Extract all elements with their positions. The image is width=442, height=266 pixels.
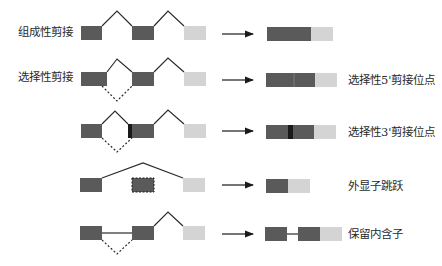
intron-splice-line bbox=[154, 11, 184, 26]
intron-splice-line bbox=[102, 163, 183, 178]
label-alt-5prime-site: 选择性5'剪接位点 bbox=[348, 73, 435, 87]
intron-splice-line bbox=[154, 58, 184, 72]
intron-splice-line bbox=[102, 111, 128, 124]
exon-2 bbox=[132, 124, 154, 138]
exon-3 bbox=[184, 26, 206, 40]
mrna-light-segment bbox=[320, 227, 342, 241]
row-intron-retention: 保留内含子 bbox=[80, 212, 403, 254]
alt-splice-dashed-line bbox=[102, 86, 132, 101]
label-exon-skipping: 外显子跳跃 bbox=[348, 179, 404, 193]
intron-splice-line bbox=[107, 59, 132, 72]
row-alt-5prime-site: 选择性5'剪接位点 bbox=[81, 58, 435, 101]
label-constitutive-splicing: 组成性剪接 bbox=[18, 25, 74, 39]
mrna-dark-segment bbox=[295, 73, 315, 87]
exon-2 bbox=[132, 72, 154, 86]
row-exon-skipping: 外显子跳跃 bbox=[80, 163, 404, 193]
mrna-dark-segment bbox=[267, 27, 311, 41]
alt-splice-dashed-line bbox=[102, 138, 132, 152]
exon-1 bbox=[80, 226, 102, 240]
exon-2 bbox=[132, 26, 154, 40]
mrna-dark-segment bbox=[298, 227, 320, 241]
exon-3 bbox=[184, 124, 206, 138]
row-alt-3prime-site: 选择性3'剪接位点 bbox=[81, 110, 435, 152]
mrna-alt-3prime-segment bbox=[288, 125, 293, 139]
label-intron-retention: 保留内含子 bbox=[348, 227, 403, 241]
mrna-light-segment bbox=[288, 179, 310, 193]
exon-1 bbox=[81, 26, 102, 40]
intron-splice-line bbox=[154, 110, 184, 124]
mrna-light-segment bbox=[311, 27, 333, 41]
exon-2 bbox=[132, 226, 154, 240]
label-alt-3prime-site: 选择性3'剪接位点 bbox=[348, 125, 435, 139]
mrna-dark-segment bbox=[293, 125, 314, 139]
exon-1 bbox=[81, 124, 102, 138]
exon-1 bbox=[80, 178, 102, 192]
label-alternative-splicing: 选择性剪接 bbox=[18, 70, 74, 84]
row-constitutive-splicing bbox=[81, 11, 333, 41]
mrna-dark-segment bbox=[266, 73, 293, 87]
mrna-splice-junction bbox=[293, 73, 295, 87]
exon-3 bbox=[184, 72, 206, 86]
intron-splice-line bbox=[102, 11, 132, 26]
exon-1-extended bbox=[81, 72, 107, 86]
mrna-dark-segment bbox=[265, 227, 287, 241]
exon-2-alt-3prime-extension bbox=[128, 124, 132, 138]
skipped-exon bbox=[132, 178, 154, 192]
alt-splice-dashed-line bbox=[102, 240, 132, 254]
exon-3 bbox=[183, 178, 205, 192]
exon-3 bbox=[183, 226, 205, 240]
mrna-light-segment bbox=[315, 73, 337, 87]
alternative-splicing-diagram: 组成性剪接 选择性剪接 选择性5'剪接位点 bbox=[0, 0, 442, 266]
mrna-dark-segment bbox=[266, 125, 288, 139]
mrna-dark-segment bbox=[266, 179, 288, 193]
mrna-light-segment bbox=[314, 125, 336, 139]
intron-splice-line bbox=[154, 212, 183, 226]
